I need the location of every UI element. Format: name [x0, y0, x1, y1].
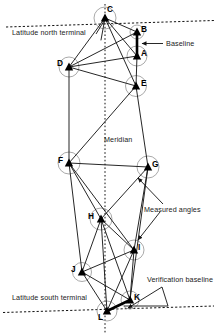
edge-D-E: [69, 67, 136, 86]
verification-baseline-label: Verification baseline: [147, 276, 213, 283]
station-marker-C: [101, 14, 109, 22]
verification-baseline-leader-2: [162, 287, 168, 306]
edge-H-J: [82, 219, 101, 272]
station-label-J: J: [71, 265, 76, 273]
latitude-terminal-lines: [3, 21, 214, 313]
baseline-label: Baseline: [166, 40, 194, 47]
triangulation-figure: A B C D E F G H I J K L Latitude north t…: [0, 0, 216, 336]
measured-angles-label: Measured angles: [144, 206, 201, 213]
edge-G-K: [130, 167, 148, 300]
edge-F-G: [69, 163, 148, 167]
meridian-label: Meridian: [104, 136, 132, 143]
station-label-D: D: [57, 59, 63, 67]
station-label-I: I: [138, 243, 140, 251]
station-marker-B: [133, 28, 141, 36]
figure-canvas: [0, 0, 216, 336]
station-marker-J: [78, 268, 86, 276]
station-label-B: B: [141, 25, 147, 33]
edge-A-E: [136, 56, 137, 86]
latitude-north-terminal-label: Latitude north terminal: [12, 29, 86, 36]
edge-C-B: [105, 18, 137, 32]
station-label-C: C: [107, 5, 113, 13]
latitude-south-terminal-label: Latitude south terminal: [12, 294, 87, 301]
edge-J-L: [82, 272, 107, 311]
station-label-K: K: [134, 293, 140, 301]
edge-E-F: [69, 86, 136, 163]
triangulation-edges: [69, 18, 148, 311]
measured-angles-leader-1: [138, 178, 163, 204]
edge-F-J: [69, 163, 82, 272]
station-markers: [65, 14, 152, 315]
station-label-L: L: [98, 313, 103, 321]
station-label-E: E: [141, 79, 147, 87]
edge-E-G: [136, 86, 148, 167]
station-label-F: F: [58, 156, 63, 164]
station-marker-K: [126, 296, 134, 304]
edge-H-I: [101, 219, 134, 250]
edge-F-H: [69, 163, 101, 219]
station-label-H: H: [88, 212, 94, 220]
edge-F-I: [69, 163, 134, 250]
station-label-G: G: [152, 160, 158, 168]
station-label-A: A: [141, 49, 147, 57]
